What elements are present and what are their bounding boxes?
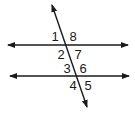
angle-label-4: 4 <box>69 78 76 93</box>
angle-label-7: 7 <box>74 47 81 62</box>
angle-label-3: 3 <box>63 61 70 76</box>
angle-label-8: 8 <box>69 29 76 44</box>
angle-label-6: 6 <box>79 61 86 76</box>
angle-label-2: 2 <box>57 47 64 62</box>
angle-diagram: 1 8 2 7 3 6 4 5 <box>0 0 135 114</box>
angle-label-5: 5 <box>84 78 91 93</box>
angle-label-1: 1 <box>51 29 58 44</box>
